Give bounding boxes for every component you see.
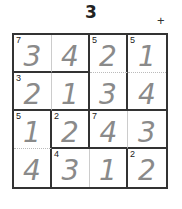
grid-cell[interactable]: 3 <box>90 73 128 111</box>
cell-value: 3 <box>90 78 126 111</box>
cell-value: 1 <box>90 154 126 187</box>
grid-cell[interactable]: 51 <box>14 111 52 149</box>
grid-cell[interactable]: 3 <box>128 111 166 149</box>
cell-value: 2 <box>14 78 51 111</box>
cell-value: 2 <box>128 154 166 187</box>
grid-cell[interactable]: 4 <box>52 35 90 73</box>
grid-cell[interactable]: 73 <box>14 35 52 73</box>
grid-cell[interactable]: 51 <box>128 35 166 73</box>
grid-cell[interactable]: 4 <box>14 149 52 187</box>
cell-value: 1 <box>52 78 88 111</box>
puzzle-title: 3 <box>0 2 182 22</box>
cell-value: 3 <box>128 116 166 149</box>
cell-value: 2 <box>52 116 88 149</box>
grid-cell[interactable]: 22 <box>128 149 166 187</box>
grid-cell[interactable]: 1 <box>52 73 90 111</box>
cell-value: 1 <box>128 40 166 73</box>
grid-cell[interactable]: 52 <box>90 35 128 73</box>
cell-value: 4 <box>90 116 127 149</box>
grid-cell[interactable]: 32 <box>14 73 52 111</box>
grid-cell[interactable]: 1 <box>90 149 128 187</box>
cell-value: 2 <box>90 40 126 73</box>
operation-symbol: + <box>157 13 165 28</box>
puzzle-grid: 7345251321345122743443122 <box>12 33 168 189</box>
cell-value: 4 <box>52 40 88 73</box>
cell-value: 4 <box>128 78 166 111</box>
grid-cell[interactable]: 4 <box>128 73 166 111</box>
cell-value: 3 <box>52 154 89 187</box>
grid-cell[interactable]: 22 <box>52 111 90 149</box>
cell-value: 3 <box>14 40 51 73</box>
grid-cell[interactable]: 43 <box>52 149 90 187</box>
grid-cell[interactable]: 74 <box>90 111 128 149</box>
cell-value: 4 <box>14 154 50 187</box>
cell-value: 1 <box>14 116 50 149</box>
